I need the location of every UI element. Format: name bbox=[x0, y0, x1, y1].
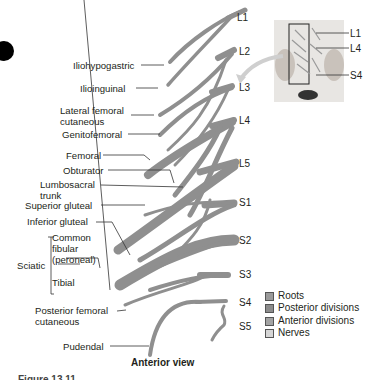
root-label-l3: L3 bbox=[239, 82, 250, 93]
legend-swatch-nerves bbox=[265, 329, 274, 338]
legend-swatch-posterior-divisions bbox=[265, 304, 274, 313]
label-pudendal: Pudendal bbox=[63, 341, 104, 352]
label-lateral-femoral-cutaneous-line2: cutaneous bbox=[60, 116, 104, 127]
label-superior-gluteal: Superior gluteal bbox=[25, 200, 92, 211]
inset-thumbnail bbox=[236, 20, 349, 102]
legend-swatch-anterior-divisions bbox=[265, 317, 274, 326]
label-genitofemoral: Genitofemoral bbox=[62, 129, 122, 140]
view-caption: Anterior view bbox=[131, 357, 194, 368]
inset-label-s4: S4 bbox=[350, 70, 362, 81]
inset-label-l1: L1 bbox=[350, 28, 361, 39]
legend-label-nerves: Nerves bbox=[278, 327, 310, 339]
label-femoral: Femoral bbox=[66, 150, 101, 161]
legend-item-nerves: Nerves bbox=[265, 327, 359, 339]
label-common-fibular-line1: Common bbox=[52, 232, 91, 243]
label-posterior-femoral-cutaneous-line2: cutaneous bbox=[35, 316, 79, 327]
label-sciatic: Sciatic bbox=[17, 260, 45, 271]
legend-item-roots: Roots bbox=[265, 290, 359, 302]
label-common-fibular-line3: (peroneal) bbox=[52, 254, 96, 265]
legend: Roots Posterior divisions Anterior divis… bbox=[265, 290, 359, 340]
root-label-l4: L4 bbox=[239, 115, 250, 126]
inset-label-l4: L4 bbox=[350, 43, 361, 54]
root-label-l5: L5 bbox=[239, 158, 250, 169]
label-common-fibular-line2: fibular bbox=[52, 243, 78, 254]
label-ilioinguinal: Ilioinguinal bbox=[80, 83, 125, 94]
root-label-s3: S3 bbox=[239, 269, 251, 280]
root-label-s1: S1 bbox=[239, 197, 251, 208]
legend-label-anterior-divisions: Anterior divisions bbox=[278, 315, 354, 327]
legend-label-posterior-divisions: Posterior divisions bbox=[278, 302, 359, 314]
label-lateral-femoral-cutaneous-line1: Lateral femoral bbox=[60, 105, 124, 116]
label-obturator: Obturator bbox=[63, 165, 104, 176]
root-label-s4: S4 bbox=[239, 297, 251, 308]
legend-item-posterior-divisions: Posterior divisions bbox=[265, 302, 359, 314]
label-tibial: Tibial bbox=[52, 277, 75, 288]
root-label-s5: S5 bbox=[239, 321, 251, 332]
label-iliohypogastric: Iliohypogastric bbox=[73, 60, 134, 71]
legend-label-roots: Roots bbox=[278, 290, 304, 302]
root-label-l1: L1 bbox=[237, 12, 248, 23]
label-posterior-femoral-cutaneous-line1: Posterior femoral bbox=[35, 305, 108, 316]
figure-caption-cutoff: Figure 13.11 bbox=[18, 375, 76, 380]
label-inferior-gluteal: Inferior gluteal bbox=[27, 216, 88, 227]
root-label-s2: S2 bbox=[239, 235, 251, 246]
legend-item-anterior-divisions: Anterior divisions bbox=[265, 315, 359, 327]
legend-swatch-roots bbox=[265, 292, 274, 301]
root-label-l2: L2 bbox=[239, 46, 250, 57]
label-lumbosacral-trunk-line1: Lumbosacral bbox=[40, 179, 95, 190]
